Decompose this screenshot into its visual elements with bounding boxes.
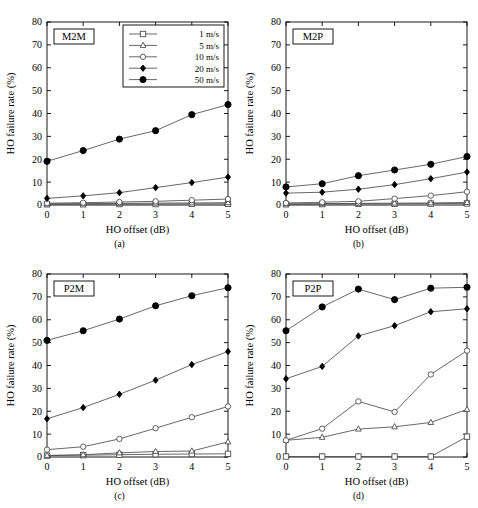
data-point-marker	[428, 193, 433, 198]
y-tick-label: 60	[271, 314, 281, 325]
y-tick-label: 10	[271, 177, 281, 188]
y-tick-label: 0	[37, 199, 42, 210]
page-footer-artifact	[0, 498, 478, 508]
data-point-marker	[44, 158, 50, 164]
series-line	[286, 351, 467, 441]
data-point-marker	[428, 175, 433, 181]
data-point-marker	[320, 454, 325, 459]
data-point-marker	[153, 303, 159, 309]
series-line	[47, 177, 228, 198]
legend-label: 10 m/s	[195, 52, 220, 62]
x-tick-label: 0	[284, 461, 289, 472]
x-axis-label: HO offset (dB)	[345, 224, 409, 236]
series-20-m-s	[45, 348, 231, 422]
y-tick-label: 10	[271, 429, 281, 440]
series-50-m-s	[283, 153, 470, 190]
panel-title-b: M2P	[303, 31, 324, 42]
y-tick-label: 80	[271, 16, 281, 27]
x-tick-label: 0	[284, 209, 289, 220]
data-point-marker	[81, 444, 86, 449]
data-point-marker	[44, 337, 50, 343]
data-point-marker	[189, 197, 194, 202]
subplot-panel-b: 01020304050607080012345HO offset (dB)HO …	[239, 0, 478, 248]
data-point-marker	[45, 416, 50, 422]
data-point-marker	[153, 448, 159, 453]
data-point-marker	[140, 54, 145, 59]
plot-c: 01020304050607080012345HO offset (dB)HO …	[0, 252, 239, 500]
data-point-marker	[392, 167, 398, 173]
x-tick-label: 4	[428, 461, 433, 472]
y-tick-label: 60	[32, 62, 42, 73]
x-tick-label: 4	[189, 209, 194, 220]
data-point-marker	[226, 174, 231, 180]
legend-label: 5 m/s	[199, 41, 219, 51]
y-tick-label: 0	[276, 451, 281, 462]
data-point-marker	[44, 447, 49, 452]
legend-label: 50 m/s	[195, 75, 220, 85]
data-point-marker	[225, 101, 231, 107]
data-point-marker	[117, 189, 122, 195]
data-point-marker	[226, 348, 231, 354]
data-point-marker	[319, 181, 325, 187]
x-tick-label: 0	[45, 209, 50, 220]
data-point-marker	[428, 285, 434, 291]
data-point-marker	[464, 153, 470, 159]
x-tick-label: 1	[320, 209, 325, 220]
data-point-marker	[464, 284, 470, 290]
y-axis-label: HO failure rate (%)	[5, 72, 17, 154]
figure-container: 01020304050607080012345HO offset (dB)HO …	[0, 0, 478, 508]
data-point-marker	[356, 333, 361, 339]
data-point-marker	[392, 297, 398, 303]
data-point-marker	[464, 406, 470, 411]
series-20-m-s	[45, 174, 231, 202]
data-point-marker	[320, 189, 325, 195]
y-tick-label: 60	[271, 62, 281, 73]
y-tick-label: 20	[32, 406, 42, 417]
y-tick-label: 50	[271, 337, 281, 348]
x-tick-label: 3	[153, 461, 158, 472]
x-tick-label: 0	[45, 461, 50, 472]
y-tick-label: 50	[32, 85, 42, 96]
data-point-marker	[153, 199, 158, 204]
plot-frame	[286, 22, 467, 205]
series-50-m-s	[44, 101, 231, 164]
data-point-marker	[189, 179, 194, 185]
legend-label: 1 m/s	[199, 29, 219, 39]
x-tick-label: 4	[428, 209, 433, 220]
data-point-marker	[283, 328, 289, 334]
series-line	[286, 192, 467, 203]
y-tick-label: 40	[271, 360, 281, 371]
y-tick-label: 20	[271, 406, 281, 417]
panel-title-a: M2M	[62, 31, 87, 42]
y-tick-label: 30	[32, 383, 42, 394]
x-tick-label: 5	[226, 461, 231, 472]
x-tick-label: 1	[320, 461, 325, 472]
data-point-marker	[392, 196, 397, 201]
data-point-marker	[80, 328, 86, 334]
y-tick-label: 70	[32, 39, 42, 50]
y-tick-label: 80	[271, 268, 281, 279]
data-point-marker	[140, 77, 146, 83]
x-tick-label: 2	[117, 209, 122, 220]
data-point-marker	[81, 193, 86, 199]
data-point-marker	[153, 128, 159, 134]
series-line	[47, 442, 228, 455]
plot-frame	[286, 274, 467, 457]
y-tick-label: 20	[32, 154, 42, 165]
y-axis-label: HO failure rate (%)	[244, 72, 256, 154]
y-axis-label: HO failure rate (%)	[5, 324, 17, 406]
data-point-marker	[465, 169, 470, 175]
data-point-marker	[428, 161, 434, 167]
series-line	[286, 157, 467, 187]
x-tick-label: 3	[153, 209, 158, 220]
data-point-marker	[356, 399, 361, 404]
data-point-marker	[392, 454, 397, 459]
plot-frame	[47, 274, 228, 457]
data-point-marker	[117, 391, 122, 397]
data-point-marker	[189, 414, 194, 419]
data-point-marker	[225, 285, 231, 291]
x-tick-label: 2	[356, 209, 361, 220]
plot-b: 01020304050607080012345HO offset (dB)HO …	[239, 0, 478, 248]
legend-label: 20 m/s	[195, 64, 220, 74]
series-20-m-s	[284, 306, 470, 382]
